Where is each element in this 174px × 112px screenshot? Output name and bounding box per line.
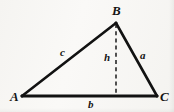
- page-edge-shadow-right: [169, 0, 174, 112]
- vertex-label-a: A: [10, 90, 19, 103]
- side-a-line: [116, 23, 157, 96]
- triangle-drawing: [0, 0, 174, 112]
- vertex-a-point: [21, 95, 24, 98]
- vertex-c-point: [156, 95, 159, 98]
- vertex-b-point: [115, 22, 118, 25]
- vertex-label-c: C: [160, 90, 169, 103]
- altitude-label-h: h: [104, 52, 110, 63]
- page-edge-shadow-bottom: [0, 108, 174, 112]
- side-label-a: a: [140, 50, 146, 61]
- side-label-c: c: [60, 47, 65, 58]
- geometry-figure: A B C a b c h: [0, 0, 174, 112]
- vertex-label-b: B: [112, 4, 121, 17]
- side-c-line: [22, 23, 116, 96]
